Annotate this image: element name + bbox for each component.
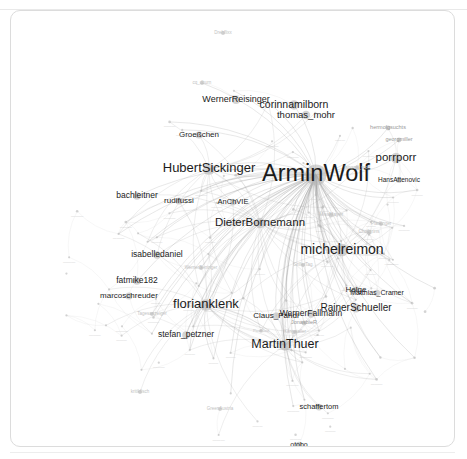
graph-node[interactable]	[294, 434, 296, 436]
graph-node[interactable]	[315, 193, 318, 196]
graph-node[interactable]	[140, 369, 142, 371]
network-graph-app: ArminWolfmichelreimonHubertSickingerflor…	[0, 0, 467, 459]
node-label-schaffertom[interactable]: schaffertom	[299, 402, 338, 411]
graph-node[interactable]	[392, 259, 394, 261]
node-label-HansAttenovic[interactable]: HansAttenovic	[378, 176, 421, 183]
node-label-unreadable: ———	[385, 262, 395, 266]
graph-node[interactable]	[207, 253, 209, 255]
graph-node[interactable]	[392, 196, 394, 198]
graph-node[interactable]	[379, 356, 381, 358]
graph-node[interactable]	[416, 189, 418, 191]
graph-node[interactable]	[151, 333, 153, 335]
node-label-porrporr[interactable]: porrporr	[376, 151, 417, 163]
graph-node[interactable]	[367, 150, 369, 152]
graph-node[interactable]	[189, 349, 191, 351]
node-label-DieterBornemann[interactable]: DieterBornemann	[215, 216, 305, 228]
graph-node[interactable]	[318, 329, 320, 331]
node-label-Chalgrins[interactable]: Chalgrins	[358, 228, 380, 234]
node-label-PaulRaul[interactable]: PaulRaul	[253, 328, 269, 333]
graph-node[interactable]	[231, 292, 233, 294]
graph-node[interactable]	[329, 426, 331, 428]
graph-node[interactable]	[242, 297, 245, 300]
graph-node[interactable]	[209, 236, 211, 238]
graph-node[interactable]	[351, 127, 353, 129]
graph-node[interactable]	[339, 135, 341, 137]
node-label-unreadable: ———	[287, 211, 299, 216]
graph-node[interactable]	[355, 299, 357, 301]
graph-node[interactable]	[230, 352, 232, 354]
graph-edge	[344, 308, 356, 369]
node-label-Tagesanzeiger[interactable]: Tagesanzeiger	[137, 311, 167, 316]
graph-node[interactable]	[195, 282, 197, 284]
graph-node[interactable]	[156, 236, 158, 238]
node-label-GreenAustria[interactable]: GreenAustria	[207, 406, 234, 411]
graph-node[interactable]	[230, 392, 232, 394]
graph-node[interactable]	[137, 232, 139, 234]
graph-node[interactable]	[256, 420, 258, 422]
node-label-Klingstaller[interactable]: Klingstaller	[284, 329, 307, 334]
node-label-unreadable: ———	[151, 301, 161, 305]
graph-node[interactable]	[413, 356, 416, 359]
node-label-unreadable: ———	[295, 171, 306, 175]
graph-node[interactable]	[233, 90, 235, 92]
graph-node[interactable]	[346, 209, 348, 211]
graph-node[interactable]	[308, 211, 310, 213]
node-label-HubertSickinger[interactable]: HubertSickinger	[163, 160, 256, 175]
graph-node[interactable]	[433, 287, 436, 290]
node-label-unreadable: ———	[399, 228, 410, 232]
graph-canvas[interactable]: ArminWolfmichelreimonHubertSickingerflor…	[11, 11, 454, 446]
node-label-janosk_wolf[interactable]: janosk_wolf	[343, 164, 371, 170]
graph-node[interactable]	[403, 225, 405, 227]
graph-node[interactable]	[105, 324, 107, 326]
node-label-unreadable: ———	[366, 224, 377, 228]
node-label-JonasbieR[interactable]: JonasbieR	[291, 319, 317, 325]
graph-node[interactable]	[198, 285, 200, 287]
graph-node[interactable]	[350, 327, 352, 329]
node-label-cq_dburn[interactable]: cq_dburn	[193, 80, 212, 85]
node-label-ototbo[interactable]: otobo	[290, 441, 308, 446]
graph-node[interactable]	[411, 302, 414, 305]
graph-node[interactable]	[212, 357, 214, 359]
node-label-bachleitner[interactable]: bachleitner	[116, 190, 158, 200]
node-label-georgmiller[interactable]: georgmiller	[385, 136, 412, 142]
node-label-unreadable: ———	[378, 256, 390, 260]
graph-node[interactable]	[391, 227, 393, 229]
graph-node[interactable]	[424, 310, 427, 313]
node-label-unreadable: ———	[116, 338, 127, 342]
graph-node[interactable]	[369, 269, 371, 271]
graph-node[interactable]	[121, 335, 123, 337]
graph-node[interactable]	[325, 295, 328, 298]
node-label-kritikfisch[interactable]: kritikfisch	[131, 389, 150, 394]
node-label-unreadable: ———	[211, 205, 222, 209]
edge-layer	[66, 83, 434, 445]
node-label-stefan_petzner[interactable]: stefan_petzner	[158, 329, 214, 339]
graph-node[interactable]	[259, 268, 261, 270]
graph-node[interactable]	[117, 233, 119, 235]
graph-node[interactable]	[65, 314, 67, 316]
graph-node[interactable]	[285, 299, 288, 302]
node-label-WernerBeninger[interactable]: WernerBeninger	[185, 265, 218, 270]
node-label-AnChVIE[interactable]: AnChVIE	[218, 197, 249, 206]
graph-node[interactable]	[344, 368, 346, 370]
network-svg[interactable]: ArminWolfmichelreimonHubertSickingerflor…	[11, 11, 454, 446]
graph-node[interactable]	[337, 257, 339, 259]
node-label-unreadable: ———	[322, 415, 334, 420]
node-label-hermolgsuchts[interactable]: hermolgsuchts	[370, 124, 406, 130]
bottom-divider	[10, 452, 455, 453]
node-label-isabelledaniel[interactable]: isabelledaniel	[131, 249, 183, 259]
node-label-Drehflixx[interactable]: Drehflixx	[214, 30, 232, 35]
graph-node[interactable]	[97, 303, 99, 305]
graph-node[interactable]	[146, 241, 148, 243]
graph-node[interactable]	[192, 325, 194, 327]
graph-node[interactable]	[303, 399, 305, 401]
graph-node[interactable]	[65, 273, 67, 275]
node-label-GrillerTag[interactable]: GrillerTag	[293, 262, 313, 267]
graph-node[interactable]	[301, 361, 303, 363]
node-label-unreadable: ———	[229, 93, 240, 97]
node-label-rudifussi[interactable]: rudifussi	[164, 196, 194, 205]
node-label-thomas_mohr[interactable]: thomas_mohr	[277, 109, 335, 120]
graph-node[interactable]	[369, 373, 371, 375]
graph-node[interactable]	[152, 316, 155, 319]
node-label-fatmike182[interactable]: fatmike182	[116, 275, 158, 285]
graph-node[interactable]	[317, 224, 320, 227]
